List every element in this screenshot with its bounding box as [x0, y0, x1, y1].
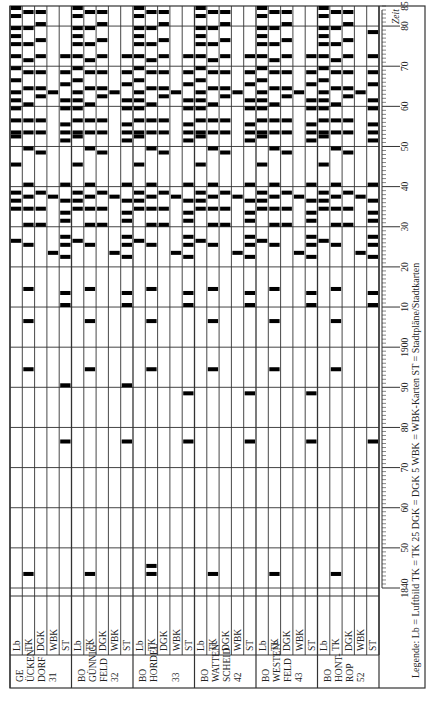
availability-bar	[343, 94, 353, 98]
availability-bar	[11, 90, 21, 94]
availability-bar	[245, 138, 255, 142]
availability-bar	[97, 94, 107, 98]
time-tick-label: 80	[400, 422, 410, 432]
availability-bar	[368, 199, 378, 203]
availability-bar	[331, 86, 341, 90]
availability-bar	[11, 66, 21, 70]
availability-bar	[134, 34, 144, 38]
availability-bar	[183, 211, 193, 215]
availability-bar	[331, 58, 341, 62]
availability-bar	[319, 14, 329, 18]
district-label: 43	[294, 672, 304, 682]
availability-bar	[134, 66, 144, 70]
availability-bar	[122, 199, 132, 203]
availability-bar	[60, 82, 70, 86]
availability-bar	[60, 98, 70, 102]
availability-bar	[159, 54, 169, 58]
availability-bar	[306, 199, 316, 203]
availability-bar	[23, 287, 33, 291]
timeline-grid: LbTKDGKWBKSTGEÜCKEN-DORF31LbTKDGKWBKSTBO…	[0, 0, 437, 704]
availability-bar	[282, 22, 292, 26]
availability-bar	[85, 572, 95, 576]
availability-bar	[183, 106, 193, 110]
availability-bar	[196, 6, 206, 10]
availability-bar	[282, 118, 292, 122]
availability-bar	[331, 572, 341, 576]
availability-bar	[196, 130, 206, 134]
availability-bar	[146, 10, 156, 14]
map-type-label: DGK	[98, 630, 108, 651]
availability-bar	[245, 235, 255, 239]
availability-bar	[60, 439, 70, 443]
availability-bar	[36, 38, 46, 42]
availability-bar	[23, 367, 33, 371]
availability-bar	[245, 391, 255, 395]
availability-bar	[306, 70, 316, 74]
availability-bar	[85, 207, 95, 211]
availability-bar	[282, 191, 292, 195]
availability-bar	[306, 243, 316, 247]
time-tick-label: 30	[400, 222, 410, 232]
availability-bar	[122, 106, 132, 110]
availability-bar	[368, 211, 378, 215]
availability-bar	[97, 38, 107, 42]
availability-bar	[122, 383, 132, 387]
availability-bar	[73, 98, 83, 102]
availability-bar	[196, 118, 206, 122]
availability-bar	[306, 98, 316, 102]
availability-bar	[146, 130, 156, 134]
district-label: SCHEID	[222, 648, 232, 682]
availability-bar	[208, 243, 218, 247]
availability-bar	[97, 22, 107, 26]
availability-bar	[257, 42, 267, 46]
availability-bar	[306, 219, 316, 223]
availability-bar	[97, 223, 107, 227]
availability-bar	[60, 199, 70, 203]
availability-bar	[343, 118, 353, 122]
availability-bar	[245, 439, 255, 443]
availability-bar	[171, 251, 181, 255]
availability-bar	[294, 251, 304, 255]
availability-bar	[368, 30, 378, 34]
availability-bar	[245, 98, 255, 102]
availability-bar	[109, 195, 119, 199]
availability-bar	[282, 94, 292, 98]
availability-bar	[282, 10, 292, 14]
availability-bar	[208, 195, 218, 199]
availability-bar	[208, 130, 218, 134]
availability-bar	[257, 207, 267, 211]
availability-bar	[23, 58, 33, 62]
availability-bar	[257, 54, 267, 58]
availability-bar	[245, 82, 255, 86]
district-label: BO	[200, 669, 210, 682]
availability-bar	[159, 22, 169, 26]
availability-bar	[343, 207, 353, 211]
availability-bar	[245, 199, 255, 203]
availability-bar	[257, 163, 267, 167]
availability-bar	[306, 183, 316, 187]
availability-bar	[331, 42, 341, 46]
availability-bar	[122, 219, 132, 223]
availability-bar	[122, 54, 132, 58]
availability-bar	[306, 54, 316, 58]
availability-bar	[208, 223, 218, 227]
availability-bar	[183, 122, 193, 126]
availability-bar	[183, 243, 193, 247]
availability-bar	[183, 255, 193, 259]
availability-bar	[183, 199, 193, 203]
availability-bar	[48, 251, 58, 255]
availability-bar	[319, 6, 329, 10]
availability-bar	[269, 42, 279, 46]
availability-bar	[368, 122, 378, 126]
map-type-label: DGK	[36, 630, 46, 651]
availability-bar	[122, 439, 132, 443]
availability-bar	[134, 78, 144, 82]
time-tick-label: 85	[400, 1, 410, 11]
availability-bar	[220, 38, 230, 42]
district-label: ÜCKEN-	[25, 646, 36, 682]
availability-bar	[196, 191, 206, 195]
availability-bar	[331, 207, 341, 211]
availability-bar	[306, 138, 316, 142]
availability-bar	[146, 42, 156, 46]
availability-bar	[269, 572, 279, 576]
